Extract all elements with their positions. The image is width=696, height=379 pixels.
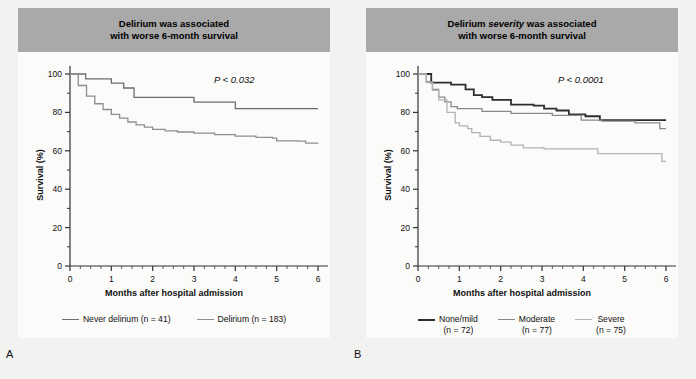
svg-text:80: 80	[53, 107, 63, 117]
svg-text:1: 1	[457, 274, 462, 284]
panel-b-legend: None/mild(n = 72)Moderate(n = 77)Severe(…	[366, 314, 678, 336]
svg-text:4: 4	[581, 274, 586, 284]
svg-text:3: 3	[192, 274, 197, 284]
svg-text:80: 80	[401, 107, 411, 117]
legend-label: Never delirium (n = 41)	[83, 314, 171, 325]
legend-swatch-line	[575, 319, 592, 320]
legend-swatch-line	[62, 319, 79, 320]
panel-a-y-axis-label: Survival (%)	[35, 127, 45, 223]
svg-text:0: 0	[416, 274, 421, 284]
legend-label: Severe(n = 75)	[596, 314, 626, 336]
legend-swatch-line	[197, 319, 214, 320]
panel-a-x-axis-label: Months after hospital admission	[18, 288, 330, 298]
svg-text:60: 60	[53, 146, 63, 156]
panel-a: Delirium was associated with worse 6-mon…	[0, 0, 348, 379]
legend-item: Severe(n = 75)	[575, 314, 626, 336]
svg-text:20: 20	[53, 223, 63, 233]
svg-text:6: 6	[316, 274, 321, 284]
svg-text:4: 4	[233, 274, 238, 284]
panel-a-title-line2: with worse 6-month survival	[110, 30, 238, 43]
legend-item: Never delirium (n = 41)	[62, 314, 171, 325]
panel-b-plot-area: 0204060801000123456 Survival (%) Months …	[366, 52, 678, 338]
legend-swatch-line	[498, 319, 515, 320]
svg-text:100: 100	[48, 69, 62, 79]
svg-text:100: 100	[396, 69, 410, 79]
legend-item: None/mild(n = 72)	[418, 314, 478, 336]
svg-text:5: 5	[274, 274, 279, 284]
legend-label: Delirium (n = 183)	[218, 314, 287, 325]
svg-text:6: 6	[664, 274, 669, 284]
panel-b-card: Delirium severity was associated with wo…	[366, 8, 678, 338]
svg-text:0: 0	[68, 274, 73, 284]
panel-b: Delirium severity was associated with wo…	[348, 0, 696, 379]
panel-b-title-line1: Delirium severity was associated	[448, 18, 597, 31]
svg-text:40: 40	[53, 184, 63, 194]
legend-label-text: Moderate	[519, 314, 555, 325]
svg-text:2: 2	[498, 274, 503, 284]
legend-label: Moderate(n = 77)	[519, 314, 555, 336]
legend-label-text: Severe	[597, 314, 624, 325]
svg-text:5: 5	[622, 274, 627, 284]
panel-b-x-axis-label: Months after hospital admission	[366, 288, 678, 298]
panel-b-title-emphasis: severity	[488, 18, 524, 29]
svg-text:60: 60	[401, 146, 411, 156]
legend-item: Moderate(n = 77)	[498, 314, 555, 336]
panel-b-pvalue: P < 0.0001	[558, 74, 604, 85]
svg-text:2: 2	[150, 274, 155, 284]
panel-a-title-banner: Delirium was associated with worse 6-mon…	[18, 8, 330, 52]
panel-a-card: Delirium was associated with worse 6-mon…	[18, 8, 330, 338]
legend-item: Delirium (n = 183)	[197, 314, 287, 325]
svg-text:40: 40	[401, 184, 411, 194]
legend-label-count: (n = 77)	[522, 325, 552, 336]
legend-label-text: None/mild	[439, 314, 478, 325]
legend-label-text: Never delirium (n = 41)	[83, 314, 171, 325]
panel-a-title-line1: Delirium was associated	[119, 18, 229, 31]
panel-a-pvalue: P < 0.032	[214, 74, 255, 85]
panel-a-legend: Never delirium (n = 41)Delirium (n = 183…	[18, 314, 330, 325]
legend-label: None/mild(n = 72)	[439, 314, 478, 336]
legend-label-text: Delirium (n = 183)	[218, 314, 287, 325]
legend-label-count: (n = 72)	[443, 325, 473, 336]
panel-b-label: B	[354, 348, 361, 360]
svg-text:3: 3	[540, 274, 545, 284]
svg-text:1: 1	[109, 274, 114, 284]
figure-container: Delirium was associated with worse 6-mon…	[0, 0, 696, 379]
panel-b-y-axis-label: Survival (%)	[383, 127, 393, 223]
panel-b-title-banner: Delirium severity was associated with wo…	[366, 8, 678, 52]
svg-text:0: 0	[57, 261, 62, 271]
svg-text:0: 0	[405, 261, 410, 271]
panel-a-label: A	[6, 348, 13, 360]
panel-a-plot-area: 0204060801000123456 Survival (%) Months …	[18, 52, 330, 338]
legend-label-count: (n = 75)	[596, 325, 626, 336]
legend-swatch-line	[418, 319, 435, 321]
svg-text:20: 20	[401, 223, 411, 233]
panel-b-title-line2: with worse 6-month survival	[458, 30, 586, 43]
